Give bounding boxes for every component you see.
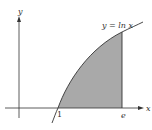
x-axis-label: x xyxy=(146,104,151,113)
tick-label-e: e xyxy=(121,111,126,120)
curve-label: y = ln x xyxy=(101,21,134,30)
ln-area-diagram: y x y = ln x 1 e xyxy=(0,0,152,130)
shaded-area xyxy=(58,32,122,108)
y-axis-arrow-icon xyxy=(17,16,21,22)
x-axis-arrow-icon xyxy=(138,106,144,110)
y-axis-label: y xyxy=(17,7,23,16)
tick-label-one: 1 xyxy=(57,110,62,119)
